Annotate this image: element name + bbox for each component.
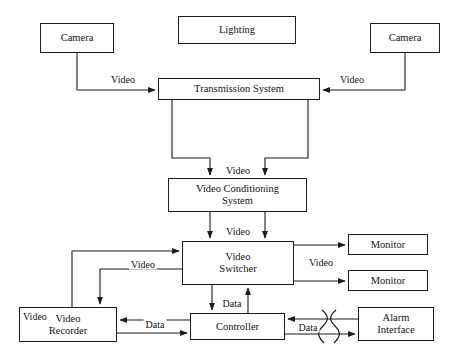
node-lighting-label: Lighting <box>217 24 257 36</box>
node-transmission-system-label: Transmission System <box>192 83 286 95</box>
node-video-switcher[interactable]: Video Switcher <box>182 241 294 285</box>
block-diagram-canvas: Camera Lighting Camera Transmission Syst… <box>0 0 454 360</box>
node-camera-right-label: Camera <box>387 32 424 44</box>
edge-transmission-to-conditioning-left <box>172 100 210 175</box>
edge-label-video-conditioning-switcher: Video <box>224 226 252 237</box>
node-video-switcher-label: Video Switcher <box>217 251 258 275</box>
node-camera-right[interactable]: Camera <box>370 23 440 53</box>
edge-label-video-recorder-input: Video <box>21 311 49 322</box>
node-controller[interactable]: Controller <box>190 313 285 340</box>
node-monitor-top[interactable]: Monitor <box>348 234 428 255</box>
node-video-recorder-label: Video Recorder <box>47 313 89 337</box>
edge-label-video-camera-right: Video <box>338 74 366 85</box>
edge-recorder-to-switcher <box>72 251 179 307</box>
edge-label-data-controller-alarm: Data <box>297 322 320 333</box>
edge-switcher-to-recorder <box>100 269 182 304</box>
edge-label-data-recorder-controller: Data <box>144 319 167 330</box>
node-alarm-interface[interactable]: Alarm Interface <box>358 307 434 341</box>
node-lighting[interactable]: Lighting <box>178 16 296 44</box>
node-camera-left[interactable]: Camera <box>40 23 114 53</box>
node-monitor-bottom[interactable]: Monitor <box>348 270 428 291</box>
edge-transmission-to-conditioning-right <box>265 100 308 175</box>
connection-break-symbol <box>319 310 340 343</box>
node-video-conditioning-system-label: Video Conditioning System <box>194 183 281 207</box>
edge-label-video-switcher-recorder: Video <box>129 259 157 270</box>
node-alarm-interface-label: Alarm Interface <box>375 312 416 336</box>
edge-label-video-switcher-monitors: Video <box>307 257 335 268</box>
edge-label-data-switcher-controller: Data <box>221 298 244 309</box>
edge-label-video-camera-left: Video <box>109 74 137 85</box>
node-monitor-top-label: Monitor <box>369 239 407 251</box>
node-monitor-bottom-label: Monitor <box>369 275 407 287</box>
node-camera-left-label: Camera <box>59 32 96 44</box>
node-video-conditioning-system[interactable]: Video Conditioning System <box>168 178 307 212</box>
edge-label-video-transmission-conditioning: Video <box>224 165 252 176</box>
node-controller-label: Controller <box>214 321 261 333</box>
node-transmission-system[interactable]: Transmission System <box>158 78 320 100</box>
